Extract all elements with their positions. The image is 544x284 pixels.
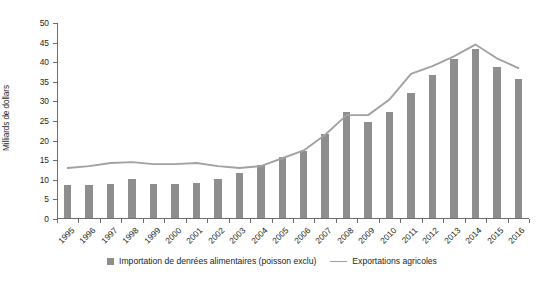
line-series <box>57 23 529 219</box>
x-tick <box>121 219 122 223</box>
x-tick <box>272 219 273 223</box>
chart-legend: Importation de denrées alimentaires (poi… <box>0 256 544 266</box>
x-tick-label: 2005 <box>264 226 290 252</box>
x-tick-label: 2010 <box>372 226 398 252</box>
x-tick <box>379 219 380 223</box>
y-tick-label: 10 <box>27 176 49 184</box>
x-tick-label: 2004 <box>243 226 269 252</box>
line-swatch-icon <box>330 261 347 262</box>
y-axis-title-text: Milliards de dollars <box>2 38 11 198</box>
x-tick-label: 1995 <box>50 226 76 252</box>
bar-swatch-icon <box>107 258 114 265</box>
x-tick-label: 1999 <box>136 226 162 252</box>
x-tick-label: 2012 <box>415 226 441 252</box>
x-tick <box>400 219 401 223</box>
chart-figure: Milliards de dollars 0510152025303540455… <box>0 0 544 284</box>
x-tick <box>57 219 58 223</box>
x-tick-label: 2001 <box>179 226 205 252</box>
x-tick-label: 2008 <box>329 226 355 252</box>
y-tick-label: 5 <box>27 195 49 203</box>
x-tick <box>336 219 337 223</box>
x-tick-label: 2007 <box>307 226 333 252</box>
y-tick-label: 0 <box>27 215 49 223</box>
y-tick-label: 15 <box>27 156 49 164</box>
x-tick <box>186 219 187 223</box>
x-tick-label: 1996 <box>71 226 97 252</box>
x-tick-label: 2000 <box>157 226 183 252</box>
legend-item-exports: Exportations agricoles <box>330 256 437 266</box>
y-tick-label: 20 <box>27 137 49 145</box>
x-tick <box>508 219 509 223</box>
x-tick <box>293 219 294 223</box>
x-tick-label: 2003 <box>222 226 248 252</box>
x-tick <box>529 219 530 223</box>
x-tick <box>314 219 315 223</box>
x-tick <box>143 219 144 223</box>
y-tick-label: 40 <box>27 58 49 66</box>
x-tick <box>422 219 423 223</box>
x-tick-label: 1997 <box>93 226 119 252</box>
x-tick <box>164 219 165 223</box>
x-tick-label: 2009 <box>350 226 376 252</box>
x-tick-label: 2006 <box>286 226 312 252</box>
legend-item-imports: Importation de denrées alimentaires (poi… <box>107 256 316 266</box>
x-tick <box>443 219 444 223</box>
x-tick-label: 2011 <box>393 226 419 252</box>
y-tick-label: 30 <box>27 97 49 105</box>
x-tick-label: 2015 <box>479 226 505 252</box>
x-tick-label: 2016 <box>500 226 526 252</box>
exports-line-path <box>68 45 519 168</box>
legend-label-exports: Exportations agricoles <box>352 256 437 266</box>
x-tick <box>357 219 358 223</box>
x-tick <box>250 219 251 223</box>
y-tick-label: 45 <box>27 39 49 47</box>
y-tick-label: 50 <box>27 19 49 27</box>
x-tick-label: 1998 <box>114 226 140 252</box>
x-tick-label: 2013 <box>436 226 462 252</box>
x-tick <box>207 219 208 223</box>
y-tick-label: 25 <box>27 117 49 125</box>
x-tick <box>486 219 487 223</box>
x-tick <box>465 219 466 223</box>
x-tick <box>78 219 79 223</box>
y-axis-title: Milliards de dollars <box>2 0 16 38</box>
legend-label-imports: Importation de denrées alimentaires (poi… <box>119 256 316 266</box>
y-tick-label: 35 <box>27 78 49 86</box>
plot-area: 05101520253035404550 1995199619971998199… <box>57 23 529 219</box>
x-tick-label: 2014 <box>458 226 484 252</box>
x-tick <box>100 219 101 223</box>
x-tick <box>229 219 230 223</box>
x-tick-label: 2002 <box>200 226 226 252</box>
